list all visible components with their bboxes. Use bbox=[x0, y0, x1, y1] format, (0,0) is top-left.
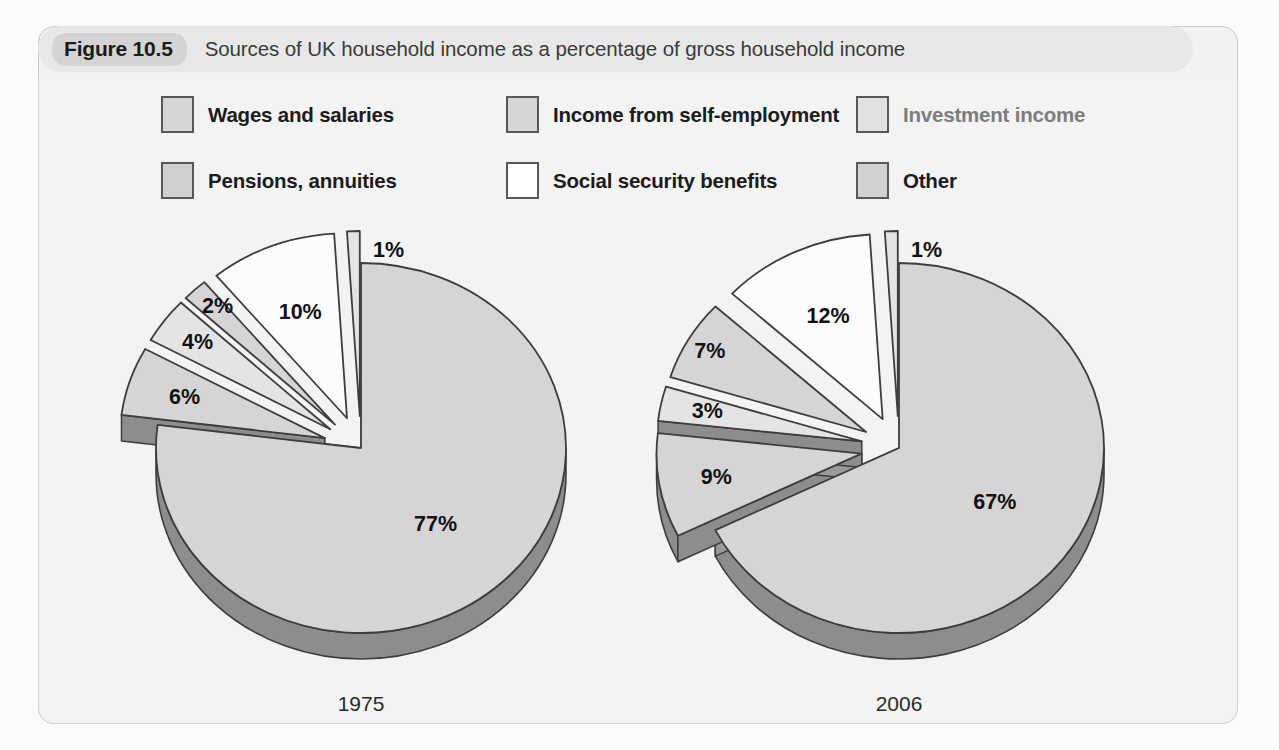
pie-year-label: 2006 bbox=[639, 692, 1159, 716]
legend-swatch-icon bbox=[856, 162, 889, 199]
pie-slice-value-label: 2% bbox=[202, 294, 233, 318]
pie-slice-value-label: 1% bbox=[911, 238, 942, 262]
legend-swatch-icon bbox=[506, 162, 539, 199]
pie-slice-value-label: 4% bbox=[182, 330, 213, 354]
legend-item-label: Social security benefits bbox=[553, 169, 777, 193]
legend-item-other[interactable]: Other bbox=[856, 162, 1156, 199]
legend-item-label: Investment income bbox=[903, 103, 1085, 127]
legend-item-label: Pensions, annuities bbox=[208, 169, 397, 193]
pie-slice-value-label: 1% bbox=[373, 238, 404, 262]
legend-item-wages-and-salaries[interactable]: Wages and salaries bbox=[161, 96, 506, 133]
pie-chart-1975-graphic: 77%6%4%2%10%1% bbox=[101, 198, 621, 718]
figure-page: Figure 10.5 Sources of UK household inco… bbox=[0, 0, 1279, 750]
legend-item-label: Other bbox=[903, 169, 957, 193]
pie-slice-value-label: 3% bbox=[692, 399, 723, 423]
chart-panel: Wages and salaries Income from self-empl… bbox=[38, 78, 1238, 724]
pie-slice-value-label: 6% bbox=[169, 385, 200, 409]
legend-item-label: Income from self-employment bbox=[553, 103, 839, 127]
pie-chart-2006: 67%9%3%7%12%1% 2006 bbox=[639, 198, 1159, 718]
legend-swatch-icon bbox=[161, 96, 194, 133]
pie-slice-value-label: 9% bbox=[701, 465, 732, 489]
pie-year-label: 1975 bbox=[101, 692, 621, 716]
legend-swatch-icon bbox=[856, 96, 889, 133]
legend-item-pensions-annuities[interactable]: Pensions, annuities bbox=[161, 162, 506, 199]
pie-slice-value-label: 12% bbox=[807, 304, 850, 328]
pie-slice-value-label: 7% bbox=[694, 339, 725, 363]
pie-slice-value-label: 10% bbox=[279, 300, 322, 324]
figure-title: Sources of UK household income as a perc… bbox=[205, 37, 905, 61]
legend-item-investment-income[interactable]: Investment income bbox=[856, 96, 1156, 133]
legend-item-social-security-benefits[interactable]: Social security benefits bbox=[506, 162, 856, 199]
pie-slice-value-label: 67% bbox=[973, 490, 1016, 514]
pie-chart-2006-graphic: 67%9%3%7%12%1% bbox=[639, 198, 1159, 718]
legend-swatch-icon bbox=[161, 162, 194, 199]
legend-item-label: Wages and salaries bbox=[208, 103, 394, 127]
figure-header: Figure 10.5 Sources of UK household inco… bbox=[38, 26, 1193, 72]
pie-charts-container: 77%6%4%2%10%1% 1975 67%9%3%7%12%1% 2006 bbox=[39, 198, 1238, 718]
figure-number-badge: Figure 10.5 bbox=[52, 33, 187, 66]
pie-chart-1975: 77%6%4%2%10%1% 1975 bbox=[101, 198, 621, 718]
legend-swatch-icon bbox=[506, 96, 539, 133]
legend-row-1: Wages and salaries Income from self-empl… bbox=[161, 96, 1211, 162]
legend-item-income-from-self-employment[interactable]: Income from self-employment bbox=[506, 96, 856, 133]
pie-slice-value-label: 77% bbox=[414, 512, 457, 536]
